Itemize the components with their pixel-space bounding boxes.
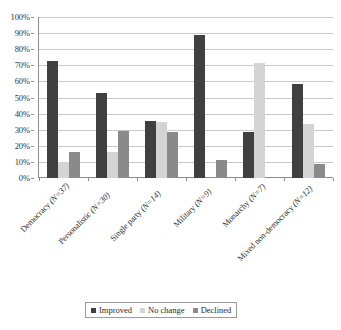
y-tick-label: 80% bbox=[15, 45, 30, 54]
x-axis-label: Military (N=9) bbox=[171, 186, 213, 228]
x-axis-label: Single party (N=14) bbox=[108, 188, 163, 243]
y-tick-mark bbox=[31, 17, 34, 18]
y-tick-label: 10% bbox=[15, 157, 30, 166]
bar-group bbox=[39, 17, 88, 178]
bar-improved bbox=[96, 93, 107, 178]
y-tick-mark bbox=[31, 162, 34, 163]
y-tick-mark bbox=[31, 178, 34, 179]
y-tick-mark bbox=[31, 65, 34, 66]
legend-label: Improved bbox=[99, 305, 132, 315]
bar-nochange bbox=[254, 63, 265, 178]
y-tick-mark bbox=[31, 33, 34, 34]
legend-item[interactable]: Declined bbox=[193, 305, 232, 315]
x-axis-label-name: Single party bbox=[108, 206, 145, 243]
bar-declined bbox=[118, 131, 129, 178]
bar-declined bbox=[167, 132, 178, 178]
bar-nochange bbox=[58, 162, 69, 178]
legend-label: Declined bbox=[201, 305, 232, 315]
bar-declined bbox=[314, 164, 325, 178]
bar-improved bbox=[145, 121, 156, 178]
y-tick-mark bbox=[31, 49, 34, 50]
bar-improved bbox=[243, 132, 254, 178]
legend-item[interactable]: No change bbox=[140, 305, 185, 315]
x-tick-mark bbox=[186, 178, 187, 181]
legend-label: No change bbox=[148, 305, 185, 315]
y-tick-label: 90% bbox=[15, 29, 30, 38]
x-axis-label: Personalistic (N=30) bbox=[56, 190, 112, 246]
bar-group bbox=[235, 17, 284, 178]
x-tick-mark bbox=[88, 178, 89, 181]
bar-nochange bbox=[303, 124, 314, 178]
bar-declined bbox=[216, 160, 227, 178]
x-axis-label-n: (N=14) bbox=[138, 188, 163, 213]
x-axis-label-n: (N=12) bbox=[290, 183, 315, 208]
bar-group bbox=[88, 17, 137, 178]
legend-item[interactable]: Improved bbox=[91, 305, 132, 315]
y-tick-label: 40% bbox=[15, 109, 30, 118]
y-axis: 0%10%20%30%40%50%60%70%80%90%100% bbox=[0, 17, 34, 178]
y-tick-mark bbox=[31, 81, 34, 82]
y-tick-mark bbox=[31, 98, 34, 99]
y-tick-mark bbox=[31, 146, 34, 147]
x-axis-label-n: (N=30) bbox=[87, 190, 112, 215]
x-axis-label-name: Personalistic bbox=[56, 207, 94, 245]
x-tick-mark bbox=[137, 178, 138, 181]
x-axis-label-name: Monarchy bbox=[220, 196, 253, 229]
bar-improved bbox=[47, 61, 58, 178]
bar-nochange bbox=[107, 152, 118, 178]
bar-group bbox=[137, 17, 186, 178]
x-axis-label: Monarchy (N=7) bbox=[220, 181, 267, 228]
y-tick-label: 70% bbox=[15, 61, 30, 70]
y-tick-mark bbox=[31, 114, 34, 115]
y-tick-label: 20% bbox=[15, 141, 30, 150]
bar-improved bbox=[292, 84, 303, 178]
x-axis-label-n: (N=7) bbox=[245, 181, 267, 203]
y-tick-label: 60% bbox=[15, 77, 30, 86]
legend-swatch-icon bbox=[140, 308, 145, 313]
x-axis-label-n: (N=9) bbox=[191, 186, 213, 208]
bar-group bbox=[186, 17, 235, 178]
y-tick-label: 30% bbox=[15, 125, 30, 134]
x-tick-mark bbox=[333, 178, 334, 181]
legend-swatch-icon bbox=[193, 308, 198, 313]
bar-nochange bbox=[156, 122, 167, 178]
chart-legend: ImprovedNo changeDeclined bbox=[85, 302, 237, 318]
x-axis-label-n: (N=37) bbox=[47, 181, 72, 206]
x-tick-mark bbox=[284, 178, 285, 181]
bar-groups bbox=[39, 17, 333, 178]
legend-swatch-icon bbox=[91, 308, 96, 313]
bar-group bbox=[284, 17, 333, 178]
y-tick-label: 50% bbox=[15, 93, 30, 102]
bar-chart: 0%10%20%30%40%50%60%70%80%90%100% Democr… bbox=[0, 0, 341, 330]
x-tick-mark bbox=[39, 178, 40, 181]
bar-improved bbox=[194, 35, 205, 178]
x-axis-label-name: Democracy bbox=[18, 199, 54, 235]
bar-declined bbox=[69, 152, 80, 178]
x-tick-mark bbox=[235, 178, 236, 181]
x-axis-label: Democracy (N=37) bbox=[18, 181, 71, 234]
y-tick-label: 100% bbox=[11, 13, 30, 22]
y-tick-mark bbox=[31, 130, 34, 131]
x-axis-labels: Democracy (N=37)Personalistic (N=30)Sing… bbox=[0, 182, 341, 287]
